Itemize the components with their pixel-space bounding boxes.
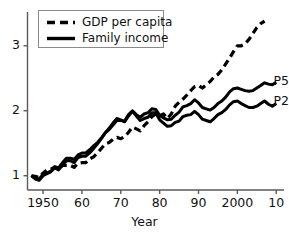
legend-item-family-income: Family income <box>46 30 168 46</box>
legend-item-gdp-per-capita: GDP per capita <box>46 14 172 30</box>
x-tick-label: 2000 <box>221 197 253 210</box>
x-tick-label: 10 <box>268 197 284 210</box>
series-line <box>31 82 276 179</box>
chart-legend: GDP per capita Family income <box>38 10 164 48</box>
legend-swatch-dashed-icon <box>46 17 76 28</box>
x-axis-title: Year <box>0 214 289 229</box>
x-tick-label: 80 <box>152 197 168 210</box>
legend-label-family-income: Family income <box>82 31 168 45</box>
series-label-p50: P50 <box>273 75 289 88</box>
chart-container: 123 195060708090200010 Year P50 P20 GDP … <box>0 0 289 239</box>
x-tick-label: 1950 <box>27 197 59 210</box>
legend-label-gdp-per-capita: GDP per capita <box>82 15 172 29</box>
series-label-p20: P20 <box>273 95 289 108</box>
legend-swatch-solid-icon <box>46 33 76 44</box>
x-tick-label: 70 <box>113 197 129 210</box>
y-tick-label: 3 <box>4 39 20 52</box>
y-tick-label: 2 <box>4 104 20 117</box>
y-tick-label: 1 <box>4 169 20 182</box>
x-tick-label: 90 <box>191 197 207 210</box>
series-line <box>31 101 276 180</box>
x-tick-label: 60 <box>74 197 90 210</box>
